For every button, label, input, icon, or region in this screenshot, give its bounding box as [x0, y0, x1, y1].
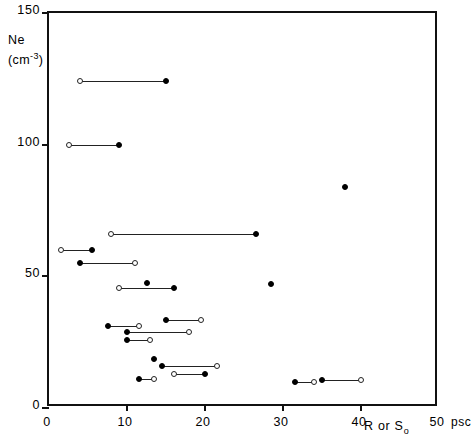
x-axis-tick: [204, 404, 206, 411]
data-pair-connector: [322, 380, 361, 381]
x-axis-tick-label: 30: [261, 415, 301, 429]
data-point-open: [214, 363, 220, 369]
data-pair-connector: [80, 263, 135, 264]
data-point-open: [136, 323, 142, 329]
data-pair-connector: [174, 374, 205, 375]
y-axis-tick-label: 150: [8, 3, 40, 17]
data-point-filled: [292, 379, 298, 385]
x-axis-tick-label: 20: [183, 415, 223, 429]
data-pair-connector: [127, 332, 189, 333]
data-point-filled: [202, 371, 208, 377]
data-point-filled: [151, 356, 157, 362]
x-axis-tick: [360, 404, 362, 411]
y-axis-title: Ne (cm-3): [8, 32, 43, 68]
plot-area: [47, 11, 437, 406]
data-point-open: [147, 337, 153, 343]
y-axis-unit-exponent: -3: [30, 51, 39, 61]
data-point-filled: [136, 376, 142, 382]
y-axis-tick: [42, 275, 49, 277]
data-point-filled: [105, 323, 111, 329]
y-axis-tick-label: 50: [8, 266, 40, 280]
data-point-open: [132, 260, 138, 266]
x-axis-tick-label: 0: [27, 415, 67, 429]
data-point-filled: [144, 280, 150, 286]
data-point-filled: [163, 78, 169, 84]
data-point-open: [171, 371, 177, 377]
x-axis-tick-label: 40: [339, 415, 379, 429]
y-axis-tick: [42, 144, 49, 146]
data-point-filled: [159, 363, 165, 369]
data-point-open: [311, 379, 317, 385]
data-point-filled: [124, 329, 130, 335]
data-point-filled: [268, 281, 274, 287]
data-pair-connector: [108, 326, 139, 327]
data-pair-connector: [69, 145, 120, 146]
y-axis-tick-label: 0: [8, 398, 40, 412]
data-point-filled: [89, 247, 95, 253]
data-point-open: [186, 329, 192, 335]
data-pair-connector: [80, 81, 166, 82]
y-axis-title-line1: Ne: [8, 32, 43, 48]
y-axis-unit-suffix: ): [39, 53, 44, 67]
y-axis-tick-label: 100: [8, 135, 40, 149]
data-point-open: [151, 376, 157, 382]
data-point-open: [77, 78, 83, 84]
data-pair-connector: [61, 250, 92, 251]
y-axis-title-line2: (cm-3): [8, 48, 43, 68]
x-axis-tick-label: 50: [417, 415, 457, 429]
x-axis-title-subscript: o: [404, 426, 410, 436]
data-point-open: [116, 285, 122, 291]
data-point-filled: [171, 285, 177, 291]
data-point-filled: [342, 184, 348, 190]
data-point-open: [108, 231, 114, 237]
data-point-filled: [319, 377, 325, 383]
x-axis-tick: [282, 404, 284, 411]
x-axis-tick: [126, 404, 128, 411]
data-point-filled: [124, 337, 130, 343]
data-point-filled: [77, 260, 83, 266]
y-axis-unit-prefix: (cm: [8, 53, 30, 67]
data-point-open: [66, 142, 72, 148]
x-axis-tick-label: 10: [105, 415, 145, 429]
data-point-filled: [116, 142, 122, 148]
y-axis-tick: [42, 407, 49, 409]
data-pair-connector: [111, 234, 255, 235]
data-point-open: [358, 377, 364, 383]
data-point-filled: [163, 317, 169, 323]
data-pair-connector: [119, 288, 174, 289]
data-pair-connector: [162, 366, 217, 367]
data-point-open: [198, 317, 204, 323]
data-point-filled: [253, 231, 259, 237]
data-pair-connector: [166, 320, 201, 321]
data-point-open: [58, 247, 64, 253]
y-axis-tick: [42, 12, 49, 14]
